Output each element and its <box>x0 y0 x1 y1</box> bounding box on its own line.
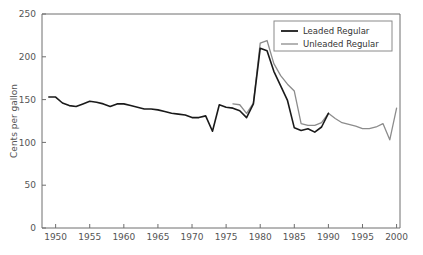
x-tick-label: 1980 <box>249 232 272 242</box>
x-tick-labels: 1950195519601965197019751980198519901995… <box>44 232 408 242</box>
chart-legend: Leaded RegularUnleaded Regular <box>274 21 392 51</box>
x-tick-label: 1990 <box>317 232 340 242</box>
chart-container: 050100150200250 195019551960196519701975… <box>0 0 423 255</box>
x-tick-label: 1955 <box>78 232 101 242</box>
y-tick-label: 200 <box>19 52 36 62</box>
gasoline-price-line-chart: 050100150200250 195019551960196519701975… <box>0 0 423 255</box>
y-axis-title: Cents per gallon <box>9 84 19 158</box>
x-tick-label: 1985 <box>283 232 306 242</box>
x-tick-label: 2000 <box>385 232 408 242</box>
x-tick-label: 1960 <box>112 232 135 242</box>
y-tick-label: 250 <box>19 9 36 19</box>
x-tick-label: 1965 <box>146 232 169 242</box>
y-tick-label: 150 <box>19 95 36 105</box>
x-tick-label: 1950 <box>44 232 67 242</box>
y-tick-label: 100 <box>19 138 36 148</box>
y-tick-label: 50 <box>25 180 37 190</box>
x-tick-label: 1970 <box>181 232 204 242</box>
x-tick-label: 1995 <box>351 232 374 242</box>
legend-label-unleaded: Unleaded Regular <box>303 39 379 49</box>
y-tick-label: 0 <box>30 223 36 233</box>
legend-label-leaded: Leaded Regular <box>303 26 370 36</box>
x-tick-label: 1975 <box>215 232 238 242</box>
